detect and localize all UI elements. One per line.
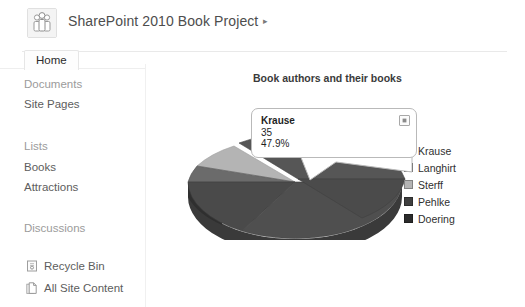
- sidebar-item-site-pages[interactable]: Site Pages: [24, 98, 80, 110]
- legend-label-doering: Doering: [418, 213, 455, 225]
- legend-label-pehlke: Pehlke: [418, 196, 450, 208]
- tooltip-percent: 47.9%: [261, 138, 295, 150]
- close-icon[interactable]: [399, 115, 410, 126]
- sidebar-item-all-site-content[interactable]: All Site Content: [26, 280, 123, 296]
- chart-legend: Krause Langhirt Sterff Pehlke Doering: [404, 142, 514, 227]
- tooltip-value: 35: [261, 127, 295, 139]
- legend-item-doering[interactable]: Doering: [404, 210, 514, 227]
- legend-label-langhirt: Langhirt: [418, 162, 456, 174]
- sidebar-item-recycle-bin-label: Recycle Bin: [44, 260, 105, 272]
- sidebar-heading-discussions: Discussions: [24, 222, 85, 234]
- legend-item-krause[interactable]: Krause: [404, 142, 514, 159]
- tab-home[interactable]: Home: [24, 50, 79, 72]
- site-header: SharePoint 2010 Book Project▸: [0, 0, 525, 46]
- legend-swatch-pehlke: [404, 197, 413, 206]
- site-title-text: SharePoint 2010 Book Project: [68, 13, 258, 29]
- people-group-icon: [27, 8, 57, 38]
- tooltip-series-name: Krause: [261, 115, 295, 127]
- sidebar-item-all-site-content-label: All Site Content: [44, 282, 123, 294]
- sidebar: Documents Site Pages Lists Books Attract…: [0, 70, 145, 307]
- top-navigation-rule: [22, 51, 507, 52]
- chart-tooltip[interactable]: Krause 35 47.9%: [251, 108, 417, 158]
- legend-label-krause: Krause: [418, 145, 451, 157]
- legend-item-langhirt[interactable]: Langhirt: [404, 159, 514, 176]
- breadcrumb-arrow-icon: ▸: [263, 16, 268, 26]
- chart-web-part: Book authors and their books: [146, 64, 525, 307]
- sidebar-heading-documents: Documents: [24, 78, 82, 90]
- legend-label-sterff: Sterff: [418, 179, 443, 191]
- documents-stack-icon: [26, 282, 38, 295]
- legend-item-pehlke[interactable]: Pehlke: [404, 193, 514, 210]
- legend-swatch-doering: [404, 214, 413, 223]
- recycle-bin-icon: [26, 260, 38, 273]
- sidebar-item-recycle-bin[interactable]: Recycle Bin: [26, 258, 105, 274]
- sidebar-item-attractions[interactable]: Attractions: [24, 181, 78, 193]
- chart-title: Book authors and their books: [253, 72, 402, 84]
- site-title[interactable]: SharePoint 2010 Book Project▸: [68, 13, 268, 29]
- legend-item-sterff[interactable]: Sterff: [404, 176, 514, 193]
- sidebar-item-books[interactable]: Books: [24, 161, 56, 173]
- tooltip-content: Krause 35 47.9%: [261, 115, 295, 150]
- sidebar-heading-lists: Lists: [24, 140, 48, 152]
